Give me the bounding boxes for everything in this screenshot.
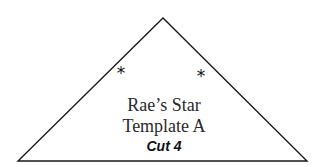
template-canvas: * * Rae’s Star Template A Cut 4 [0, 0, 327, 167]
right-asterisk-marker: * [197, 66, 206, 86]
template-title-line2: Template A [122, 116, 205, 136]
left-asterisk-marker: * [117, 63, 126, 83]
template-title-line1: Rae’s Star [127, 95, 201, 115]
cut-instruction: Cut 4 [147, 138, 182, 154]
